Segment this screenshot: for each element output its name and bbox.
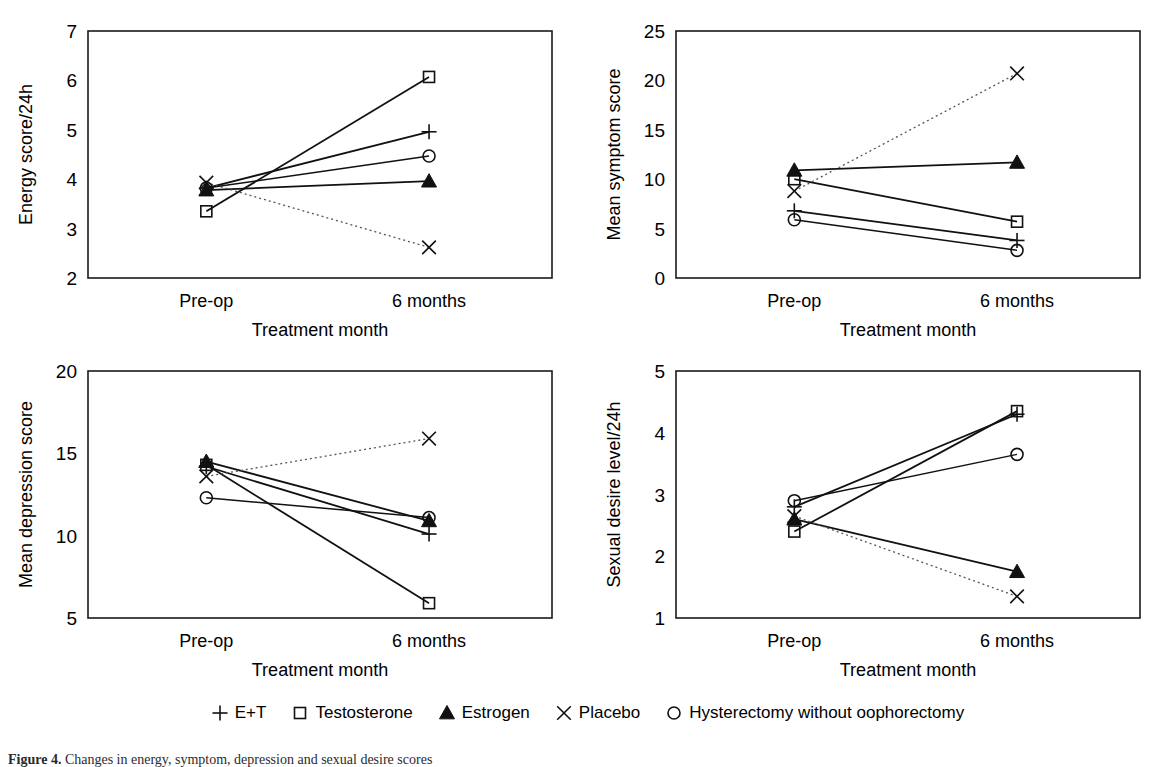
x-category-label: Pre-op bbox=[767, 631, 821, 651]
series-hysterectomy-without-oophorectomy bbox=[794, 220, 1017, 251]
x-axis-title: Treatment month bbox=[840, 660, 976, 680]
x-category-label: 6 months bbox=[980, 631, 1054, 651]
series-testosterone bbox=[794, 411, 1017, 531]
chart-desire: 12345Sexual desire level/24hPre-op6 mont… bbox=[588, 340, 1176, 680]
series-estrogen bbox=[206, 181, 429, 190]
chart-panel-desire: 12345Sexual desire level/24hPre-op6 mont… bbox=[588, 340, 1176, 680]
x-category-label: 6 months bbox=[980, 291, 1054, 311]
figure-caption: Figure 4. Changes in energy, symptom, de… bbox=[8, 752, 1168, 767]
chart-panel-symptom: 0510152025Mean symptom scorePre-op6 mont… bbox=[588, 0, 1176, 340]
y-tick-label: 1 bbox=[654, 608, 665, 629]
open-circle-icon bbox=[666, 705, 682, 721]
series-e-t bbox=[206, 132, 429, 188]
y-tick-label: 20 bbox=[644, 70, 665, 91]
x-category-label: Pre-op bbox=[179, 631, 233, 651]
y-axis-title: Sexual desire level/24h bbox=[604, 401, 624, 587]
chart-depression: 5101520Mean depression scorePre-op6 mont… bbox=[0, 340, 588, 680]
legend-item: Testosterone bbox=[292, 703, 412, 723]
y-tick-label: 5 bbox=[66, 608, 77, 629]
legend-item-label: Placebo bbox=[579, 703, 640, 723]
y-tick-label: 2 bbox=[66, 268, 77, 289]
y-tick-label: 0 bbox=[654, 268, 665, 289]
filled-triangle-icon bbox=[422, 174, 437, 187]
y-tick-label: 7 bbox=[66, 21, 77, 42]
y-tick-label: 15 bbox=[56, 443, 77, 464]
y-tick-label: 25 bbox=[644, 21, 665, 42]
x-axis-title: Treatment month bbox=[252, 320, 388, 340]
plot-frame bbox=[88, 371, 552, 618]
figure-root: 234567Energy score/24hPre-op6 monthsTrea… bbox=[0, 0, 1176, 767]
legend-item-label: Testosterone bbox=[315, 703, 412, 723]
filled-triangle-icon bbox=[1010, 155, 1025, 168]
legend-item-label: Hysterectomy without oophorectomy bbox=[689, 703, 964, 723]
y-tick-label: 10 bbox=[56, 526, 77, 547]
y-tick-label: 6 bbox=[66, 70, 77, 91]
series-estrogen bbox=[206, 462, 429, 521]
open-circle-icon bbox=[1011, 448, 1023, 460]
y-tick-label: 20 bbox=[56, 361, 77, 382]
cross-icon bbox=[422, 432, 436, 446]
chart-symptom: 0510152025Mean symptom scorePre-op6 mont… bbox=[588, 0, 1176, 340]
plus-icon bbox=[212, 706, 227, 721]
y-tick-label: 3 bbox=[654, 485, 665, 506]
series-markers bbox=[788, 509, 1024, 603]
legend-item: Placebo bbox=[556, 703, 640, 723]
x-category-label: Pre-op bbox=[767, 291, 821, 311]
cross-icon bbox=[556, 705, 572, 721]
y-tick-label: 3 bbox=[66, 219, 77, 240]
chart-legend: E+TTestosteroneEstrogenPlaceboHysterecto… bbox=[0, 696, 1176, 730]
y-tick-label: 4 bbox=[66, 169, 77, 190]
open-square-icon bbox=[295, 708, 306, 719]
caption-label: Figure 4. bbox=[8, 752, 61, 767]
y-axis-title: Mean depression score bbox=[16, 401, 36, 588]
legend-item: E+T bbox=[212, 703, 267, 723]
plus-icon bbox=[1010, 233, 1025, 248]
series-testosterone bbox=[206, 465, 429, 603]
cross-icon bbox=[422, 241, 436, 255]
y-axis-title: Mean symptom score bbox=[604, 68, 624, 240]
plot-frame bbox=[676, 31, 1140, 278]
series-placebo bbox=[794, 73, 1017, 191]
cross-icon bbox=[557, 706, 571, 720]
open-circle-icon bbox=[668, 707, 680, 719]
series-estrogen bbox=[794, 519, 1017, 571]
series-estrogen bbox=[794, 162, 1017, 170]
cross-icon bbox=[1010, 67, 1024, 81]
plus-icon bbox=[422, 124, 437, 139]
legend-item-label: Estrogen bbox=[462, 703, 530, 723]
x-category-label: Pre-op bbox=[179, 291, 233, 311]
y-axis-title: Energy score/24h bbox=[16, 84, 36, 225]
series-e-t bbox=[794, 414, 1017, 507]
plus-icon bbox=[422, 527, 437, 542]
series-placebo bbox=[794, 516, 1017, 596]
y-tick-label: 5 bbox=[66, 120, 77, 141]
y-tick-label: 5 bbox=[654, 361, 665, 382]
chart-energy: 234567Energy score/24hPre-op6 monthsTrea… bbox=[0, 0, 588, 340]
plus-icon bbox=[212, 705, 228, 721]
x-axis-title: Treatment month bbox=[252, 660, 388, 680]
legend-item: Estrogen bbox=[439, 703, 530, 723]
plot-frame bbox=[676, 371, 1140, 618]
x-category-label: 6 months bbox=[392, 291, 466, 311]
x-axis-title: Treatment month bbox=[840, 320, 976, 340]
filled-triangle-icon bbox=[439, 705, 455, 721]
plot-frame bbox=[88, 31, 552, 278]
y-tick-label: 4 bbox=[654, 423, 665, 444]
filled-triangle-icon bbox=[439, 706, 454, 719]
y-tick-label: 2 bbox=[654, 546, 665, 567]
y-tick-label: 10 bbox=[644, 169, 665, 190]
legend-item-label: E+T bbox=[235, 703, 267, 723]
y-tick-label: 15 bbox=[644, 120, 665, 141]
open-square-icon bbox=[292, 705, 308, 721]
series-placebo bbox=[206, 183, 429, 248]
caption-text: Changes in energy, symptom, depression a… bbox=[65, 752, 432, 767]
y-tick-label: 5 bbox=[654, 219, 665, 240]
cross-icon bbox=[788, 184, 802, 198]
chart-panel-energy: 234567Energy score/24hPre-op6 monthsTrea… bbox=[0, 0, 588, 340]
legend-item: Hysterectomy without oophorectomy bbox=[666, 703, 964, 723]
chart-panel-depression: 5101520Mean depression scorePre-op6 mont… bbox=[0, 340, 588, 680]
series-testosterone bbox=[206, 77, 429, 211]
x-category-label: 6 months bbox=[392, 631, 466, 651]
cross-icon bbox=[1010, 590, 1024, 604]
